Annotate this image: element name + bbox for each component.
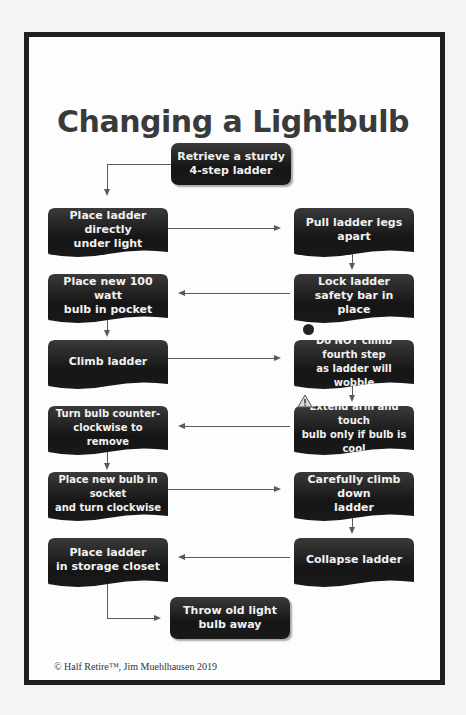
- step-turn-counter: Turn bulb counter- clockwise to remove: [48, 406, 168, 456]
- step-bulb-pocket: Place new 100 watt bulb in pocket: [48, 274, 168, 324]
- step-collapse: Collapse ladder: [294, 538, 414, 588]
- connector-socket-down: [168, 489, 279, 490]
- step-do-not-climb: Do NOT climb fourth step as ladder will …: [294, 340, 414, 390]
- connector-retrieve-v: [107, 164, 108, 194]
- step-extend-arm: Extend arm and touch bulb only if bulb i…: [294, 406, 414, 456]
- connector-retrieve-h: [107, 164, 171, 165]
- connector-collapse-storage: [180, 557, 290, 558]
- step-lock-bar: Lock ladder safety bar in place: [294, 274, 414, 324]
- connector-extend-turn: [180, 426, 290, 427]
- step-pull-legs: Pull ladder legs apart: [294, 208, 414, 258]
- connector-climb-donot: [168, 358, 279, 359]
- step-climb: Climb ladder: [48, 340, 168, 390]
- warning-triangle-icon: [297, 394, 313, 408]
- connector-place-pull: [168, 228, 279, 229]
- stop-circle-icon: [303, 324, 314, 335]
- step-place-under: Place ladder directly under light: [48, 208, 168, 258]
- copyright-footer: © Half Retire™, Jim Muehlhausen 2019: [54, 661, 217, 672]
- diagram-title: Changing a Lightbulb: [0, 104, 466, 139]
- step-storage: Place ladder in storage closet: [48, 538, 168, 588]
- step-throw-away: Throw old light bulb away: [170, 597, 290, 639]
- step-retrieve: Retrieve a sturdy 4-step ladder: [171, 143, 291, 185]
- step-climb-down: Carefully climb down ladder: [294, 472, 414, 522]
- step-place-socket: Place new bulb in socket and turn clockw…: [48, 472, 168, 522]
- connector-storage-h: [107, 618, 159, 619]
- connector-lock-pocket: [180, 293, 290, 294]
